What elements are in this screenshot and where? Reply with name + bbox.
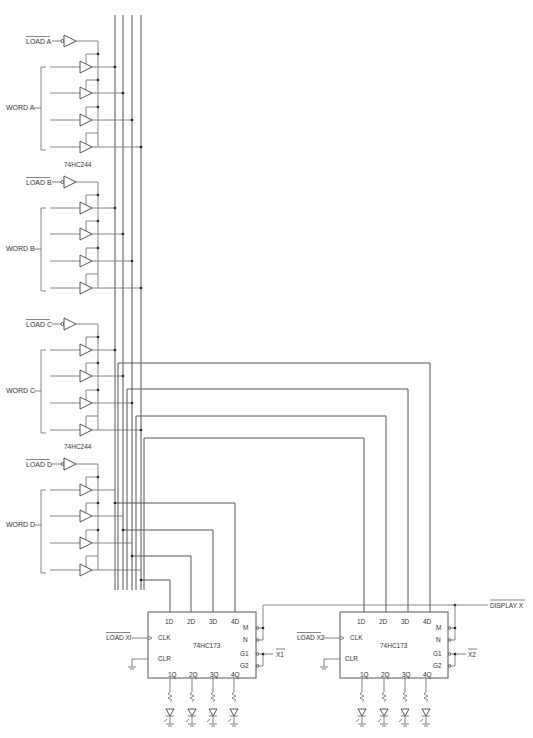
x1-pin-2q: 2Q [189,671,198,679]
register-x2: 1D 2D 3D 4D 74HC173 CLK CLR LOAD X2 1Q 2… [297,600,525,726]
data-bus [115,15,141,590]
x2-pin-4d: 4D [423,618,432,625]
x2-led-outputs [356,678,430,726]
x2-pin-m: M [436,624,441,631]
x1-pin-g2: G2 [240,662,249,669]
x1-led-outputs [164,678,238,726]
x1-pin-2d: 2D [187,618,196,625]
load-x1-label: LOAD XI [106,634,132,641]
word-c-label: WORD C [6,387,35,394]
x1-pin-4q: 4Q [231,671,240,679]
x1-pin-3d: 3D [209,618,218,625]
x1-pin-clk: CLK [158,634,171,641]
x2-enable-label: X2 [468,651,476,658]
x1-pin-clr: CLR [158,655,171,662]
word-d-block: LOAD D WORD D [6,458,141,576]
x2-pin-4q: 4Q [423,671,432,679]
x1-pin-4d: 4D [231,618,240,625]
word-d-label: WORD D [6,521,35,528]
word-b-block: LOAD B WORD B [6,176,142,294]
x1-chip-label: 74HC173 [193,642,221,649]
led-icon [207,678,217,726]
x2-pin-3q: 3Q [402,671,411,679]
led-icon [420,678,430,726]
x2-pin-1q: 1Q [360,671,369,679]
display-x-label: DISPLAY X [490,602,524,609]
x2-pin-clk: CLK [350,634,363,641]
x1-pin-1d: 1D [165,618,174,625]
load-x2-label: LOAD X2 [297,634,325,641]
led-icon [399,678,409,726]
x2-pin-n: N [436,636,441,643]
load-d-label: LOAD D [26,461,52,468]
chip-label-c: 74HC244 [64,443,92,450]
x2-pin-1d: 1D [357,618,366,625]
bus-to-x2-routing [118,363,430,612]
x2-pin-g1: G1 [433,650,442,657]
x1-pin-m: M [243,624,248,631]
x2-pin-2q: 2Q [381,671,390,679]
x1-enable-label: X1 [276,651,284,658]
word-b-label: WORD B [6,245,35,252]
x2-pin-2d: 2D [379,618,388,625]
led-icon [164,678,174,726]
word-c-block: LOAD C WORD C 74HC244 [6,318,142,450]
load-c-label: LOAD C [26,321,52,328]
x2-pin-3d: 3D [401,618,410,625]
circuit-diagram: LOAD A WORD A 74HC244 LOAD B [0,0,533,738]
x2-chip-label: 74HC173 [380,642,408,649]
led-icon [186,678,196,726]
x1-pin-3q: 3Q [210,671,219,679]
led-icon [378,678,388,726]
chip-label-a: 74HC244 [64,161,92,168]
load-a-label: LOAD A [26,38,52,45]
x1-pin-1q: 1Q [168,671,177,679]
x1-pin-g1: G1 [240,650,249,657]
load-b-label: LOAD B [26,179,52,186]
x1-pin-n: N [243,636,248,643]
load-a-buffer-icon [64,35,76,47]
x2-pin-clr: CLR [345,655,358,662]
word-a-label: WORD A [6,104,35,111]
led-icon [356,678,366,726]
x2-pin-g2: G2 [433,662,442,669]
word-a-block: LOAD A WORD A 74HC244 [6,35,142,168]
led-icon [228,678,238,726]
